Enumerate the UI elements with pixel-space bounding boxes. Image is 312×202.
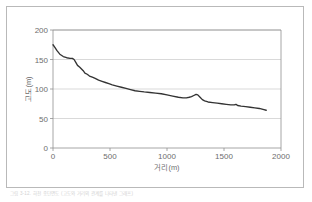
x-axis-tick-marks — [53, 148, 281, 151]
elevation-profile-chart: 0500100015002000 050100150200 거리(m) 고도(m… — [0, 0, 312, 202]
y-tick-label-50: 50 — [39, 115, 48, 124]
figure-caption: 그림 3-12. 하천 종단면도 (고도와 거리의 관계를 나타낸 그래프) — [10, 191, 302, 197]
x-tick-label-1000: 1000 — [158, 152, 176, 161]
y-tick-label-150: 150 — [35, 56, 49, 65]
y-axis-title: 고도(m) — [24, 76, 33, 101]
x-tick-label-2000: 2000 — [272, 152, 290, 161]
y-tick-label-100: 100 — [35, 85, 49, 94]
y-axis-tick-marks — [50, 30, 53, 148]
x-tick-label-0: 0 — [51, 152, 56, 161]
y-axis-tick-labels: 050100150200 — [35, 26, 49, 153]
y-tick-label-0: 0 — [44, 144, 49, 153]
x-tick-label-500: 500 — [103, 152, 117, 161]
figure-container: 0500100015002000 050100150200 거리(m) 고도(m… — [0, 0, 312, 202]
x-tick-label-1500: 1500 — [215, 152, 233, 161]
y-tick-label-200: 200 — [35, 26, 49, 35]
x-axis-tick-labels: 0500100015002000 — [51, 152, 291, 161]
x-axis-title: 거리(m) — [154, 163, 179, 172]
